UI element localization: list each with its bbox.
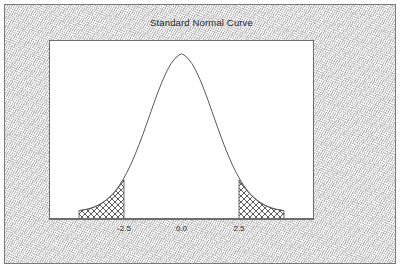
page-title: Standard Normal Curve (0, 17, 403, 28)
normal-curve-plot (49, 40, 314, 220)
left-tail-shaded-region (79, 180, 124, 219)
right-tail-shaded-region (239, 180, 284, 219)
bell-curve-line (79, 54, 284, 211)
standard-normal-curve-figure: Standard Normal Curve -2.5 0.0 2.5 (0, 0, 403, 276)
